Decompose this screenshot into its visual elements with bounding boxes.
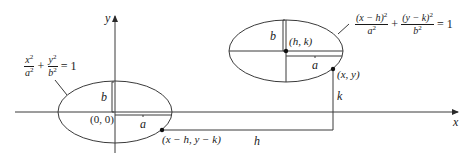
point-x-minus-h	[160, 128, 164, 132]
shifted-ellipse-equation: (x − h)2 a2 + (y − k)2 b2 = 1	[355, 12, 453, 37]
ellipse-translation-diagram: y x b (0, 0) a (x − h, y − k) x2 a2 + y2…	[0, 0, 465, 157]
h-label: h	[254, 135, 260, 147]
y-axis-label: y	[105, 12, 110, 24]
shifted-equation-leader	[338, 24, 349, 34]
origin-eq-term1: x2 a2	[24, 54, 35, 79]
point-x-minus-h-label: (x − h, y − k)	[162, 134, 221, 145]
origin-a-label: a	[140, 118, 146, 130]
origin-ellipse-equation: x2 a2 + y2 b2 = 1	[24, 54, 77, 79]
origin-center-label: (0, 0)	[90, 114, 114, 125]
point-xy	[331, 67, 335, 71]
origin-eq-term2: y2 b2	[47, 54, 58, 79]
center-hk-point	[284, 49, 288, 53]
x-axis-label: x	[453, 116, 458, 128]
origin-b-label: b	[101, 91, 107, 103]
shifted-b-bracket	[283, 20, 285, 51]
origin-b-bracket	[112, 82, 114, 112]
shifted-b-label: b	[270, 30, 276, 42]
shifted-center-label: (h, k)	[289, 36, 312, 47]
origin-equation-leader	[55, 80, 67, 95]
point-xy-label: (x, y)	[337, 69, 360, 80]
k-label: k	[337, 90, 342, 102]
shifted-eq-term1: (x − h)2 a2	[355, 12, 388, 37]
shifted-a-label: a	[312, 59, 318, 71]
shifted-eq-term2: (y − k)2 b2	[401, 12, 434, 37]
